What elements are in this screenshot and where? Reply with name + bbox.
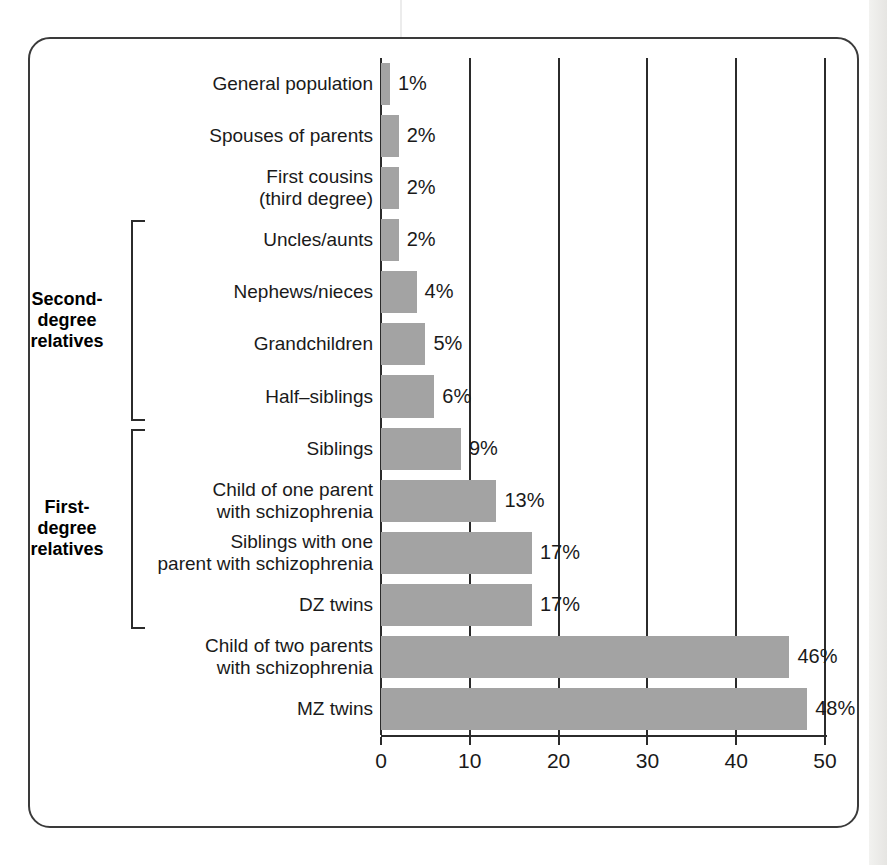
x-tick-10: [469, 737, 471, 745]
bar: [381, 688, 807, 730]
bracket-second-degree: [131, 220, 145, 420]
x-tick-label-50: 50: [795, 749, 855, 773]
x-tick-30: [646, 737, 648, 745]
bar-value-label: 5%: [433, 332, 462, 355]
x-tick-label-10: 10: [440, 749, 500, 773]
bar-value-label: 48%: [815, 697, 855, 720]
category-label: MZ twins: [53, 698, 373, 720]
bar-value-label: 2%: [407, 124, 436, 147]
category-label: Siblings: [53, 438, 373, 460]
bar-value-label: 1%: [398, 72, 427, 95]
bar-value-label: 2%: [407, 176, 436, 199]
bar: [381, 375, 434, 417]
category-label: Spouses of parents: [53, 125, 373, 147]
x-axis-line: [381, 735, 827, 737]
bar-value-label: 4%: [425, 280, 454, 303]
x-tick-label-40: 40: [706, 749, 766, 773]
category-label: Half–siblings: [53, 386, 373, 408]
x-tick-label-30: 30: [617, 749, 677, 773]
bar: [381, 271, 417, 313]
bar: [381, 115, 399, 157]
category-label: First cousins (third degree): [53, 166, 373, 210]
bar-value-label: 9%: [469, 437, 498, 460]
bar-value-label: 6%: [442, 385, 471, 408]
bar: [381, 219, 399, 261]
bar-chart-plot-area: 010203040501%General population2%Spouses…: [0, 0, 887, 865]
x-tick-label-0: 0: [351, 749, 411, 773]
bar-value-label: 2%: [407, 228, 436, 251]
x-tick-40: [735, 737, 737, 745]
bar: [381, 584, 532, 626]
bar: [381, 480, 496, 522]
category-label: Uncles/aunts: [53, 229, 373, 251]
category-label: DZ twins: [53, 594, 373, 616]
bar-value-label: 13%: [504, 489, 544, 512]
gridline-40: [735, 58, 737, 735]
bar-value-label: 17%: [540, 541, 580, 564]
bar: [381, 636, 789, 678]
bracket-label-first-degree: First- degree relatives: [12, 497, 122, 560]
bar: [381, 532, 532, 574]
gridline-30: [646, 58, 648, 735]
bracket-first-degree: [131, 429, 145, 629]
x-tick-label-20: 20: [529, 749, 589, 773]
category-label: General population: [53, 73, 373, 95]
category-label: Child of two parents with schizophrenia: [53, 635, 373, 679]
gridline-50: [824, 58, 826, 735]
x-tick-20: [558, 737, 560, 745]
x-tick-0: [380, 737, 382, 745]
x-tick-50: [824, 737, 826, 745]
bar-value-label: 17%: [540, 593, 580, 616]
bracket-label-second-degree: Second- degree relatives: [12, 289, 122, 352]
gridline-20: [558, 58, 560, 735]
bar: [381, 167, 399, 209]
bar: [381, 63, 390, 105]
bar: [381, 323, 425, 365]
bar: [381, 428, 461, 470]
bar-value-label: 46%: [797, 645, 837, 668]
